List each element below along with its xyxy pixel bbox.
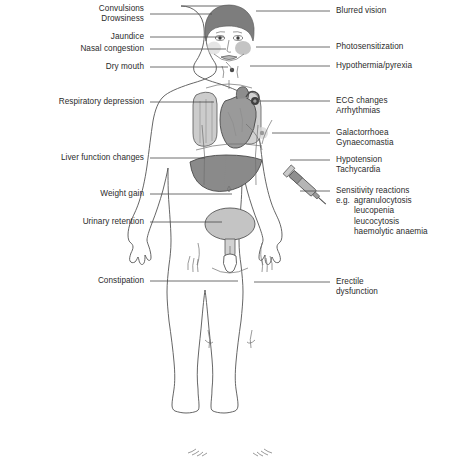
sensitivity-eg-label: e.g.	[336, 196, 354, 206]
sensitivity-reaction-item: e.g.agranulocytosis	[336, 196, 428, 206]
respiratory-depression-label: Respiratory depression	[0, 97, 144, 107]
constipation-label: Constipation	[0, 276, 144, 286]
ecg-changes-arrhythmias-line-0: ECG changes	[336, 96, 388, 106]
hypotension-tachycardia-line-1: Tachycardia	[336, 165, 382, 175]
galactorrhoea-gynaecomastia-line-1: Gynaecomastia	[336, 138, 394, 148]
sensitivity-reaction-text: haemolytic anaemia	[354, 227, 428, 237]
sensitivity-reaction-text: agranulocytosis	[354, 196, 412, 206]
weight-gain-line-0: Weight gain	[0, 189, 144, 199]
sensitivity-reaction-text: leucocytosis	[354, 217, 399, 227]
convulsions-drowsiness-line-1: Drowsiness	[0, 14, 144, 24]
blurred-vision-label: Blurred vision	[336, 6, 386, 16]
weight-gain-label: Weight gain	[0, 189, 144, 199]
nasal-congestion-line-0: Nasal congestion	[0, 44, 144, 54]
blurred-vision-line-0: Blurred vision	[336, 6, 386, 16]
galactorrhoea-gynaecomastia-line-0: Galactorrhoea	[336, 128, 394, 138]
convulsions-drowsiness-label: ConvulsionsDrowsiness	[0, 4, 144, 24]
photosensitization-label: Photosensitization	[336, 42, 403, 52]
sensitivity-reaction-item: leucocytosis	[336, 217, 428, 227]
ecg-changes-arrhythmias-line-1: Arrhythmias	[336, 106, 388, 116]
hypotension-tachycardia-line-0: Hypotension	[336, 155, 382, 165]
dry-mouth-label: Dry mouth	[0, 62, 144, 72]
respiratory-depression-line-0: Respiratory depression	[0, 97, 144, 107]
jaundice-line-0: Jaundice	[0, 32, 144, 42]
sensitivity-reactions-heading: Sensitivity reactions	[336, 186, 428, 196]
erectile-dysfunction-label: Erectiledysfunction	[336, 277, 378, 297]
syringe	[283, 165, 330, 209]
diagram-canvas: .ol{fill:#ffffff;stroke:#555555;stroke-w…	[0, 0, 458, 464]
liver-function-changes-line-0: Liver function changes	[0, 153, 144, 163]
hypothermia-pyrexia-line-0: Hypothermia/pyrexia	[336, 61, 412, 71]
constipation-line-0: Constipation	[0, 276, 144, 286]
hypotension-tachycardia-label: HypotensionTachycardia	[336, 155, 382, 175]
jaundice-label: Jaundice	[0, 32, 144, 42]
urinary-retention-line-0: Urinary retention	[0, 217, 144, 227]
sensitivity-reactions-label: Sensitivity reactionse.g.agranulocytosis…	[336, 186, 428, 237]
ecg-changes-arrhythmias-label: ECG changesArrhythmias	[336, 96, 388, 116]
sensitivity-reaction-item: haemolytic anaemia	[336, 227, 428, 237]
liver-function-changes-label: Liver function changes	[0, 153, 144, 163]
galactorrhoea-gynaecomastia-label: GalactorrhoeaGynaecomastia	[336, 128, 394, 148]
erectile-dysfunction-line-0: Erectile	[336, 277, 378, 287]
urinary-retention-label: Urinary retention	[0, 217, 144, 227]
sensitivity-reaction-text: leucopenia	[354, 206, 394, 216]
convulsions-drowsiness-line-0: Convulsions	[0, 4, 144, 14]
photosensitization-line-0: Photosensitization	[336, 42, 403, 52]
sensitivity-reaction-item: leucopenia	[336, 206, 428, 216]
nasal-congestion-label: Nasal congestion	[0, 44, 144, 54]
dry-mouth-line-0: Dry mouth	[0, 62, 144, 72]
erectile-dysfunction-line-1: dysfunction	[336, 287, 378, 297]
hypothermia-pyrexia-label: Hypothermia/pyrexia	[336, 61, 412, 71]
